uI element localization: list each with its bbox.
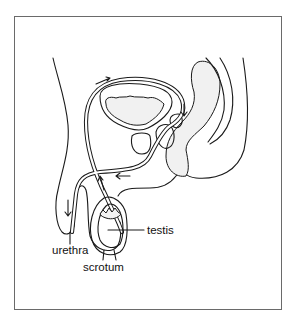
flow-arrow-lower [116,173,130,179]
leader-scrotum-right [114,250,116,260]
rectum [166,61,220,176]
leader-scrotum-left [103,250,104,260]
bladder [106,96,164,125]
epididymis [100,208,121,219]
abdomen-contour [53,58,121,250]
prostate [131,133,150,154]
label-urethra: urethra [52,244,89,256]
anatomy-diagram: testis urethra scrotum [0,0,293,323]
label-testis: testis [147,224,174,236]
label-scrotum: scrotum [83,261,124,273]
flow-arrow-penis [65,200,71,216]
